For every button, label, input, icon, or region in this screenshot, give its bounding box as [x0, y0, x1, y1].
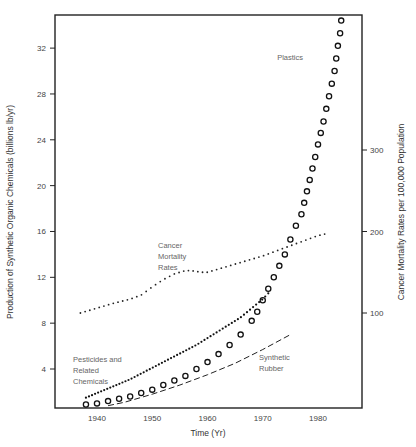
- left-tick-label: 4: [42, 365, 47, 374]
- right-tick-label: 100: [370, 309, 384, 318]
- left-tick-label: 32: [37, 44, 46, 53]
- cancer-label-line2: Mortality: [158, 252, 187, 261]
- x-tick-label: 1940: [88, 414, 106, 423]
- plastics-series: [83, 18, 343, 407]
- cancer-label-line3: Rates: [158, 263, 178, 272]
- left-tick-label: 24: [37, 136, 46, 145]
- left-axis-title: Production of Synthetic Organic Chemical…: [5, 105, 15, 319]
- left-tick-label: 20: [37, 182, 46, 191]
- rubber-label-line1: Synthetic: [259, 353, 290, 362]
- x-tick-label: 1950: [143, 414, 161, 423]
- chart: 48121620242832 100200300 194019501960197…: [0, 0, 416, 447]
- cancer-mortality-rates-series: [80, 233, 326, 314]
- x-tick-label: 1960: [199, 414, 217, 423]
- plastics-label: Plastics: [277, 53, 303, 62]
- pesticides-label-line3: Chemicals: [73, 377, 108, 386]
- left-tick-label: 16: [37, 227, 46, 236]
- series-layer: [80, 18, 344, 407]
- plot-frame: [55, 15, 362, 408]
- x-tick-label: 1980: [309, 414, 327, 423]
- pesticides-and-related-chemicals-series: [85, 292, 270, 398]
- pesticides-label-line2: Related: [73, 366, 99, 375]
- x-tick-label: 1970: [254, 414, 272, 423]
- right-axis-ticks: 100200300: [362, 146, 384, 318]
- x-axis-title: Time (Yr): [190, 428, 225, 438]
- left-tick-label: 8: [42, 319, 47, 328]
- right-tick-label: 300: [370, 146, 384, 155]
- left-tick-label: 28: [37, 90, 46, 99]
- right-tick-label: 200: [370, 228, 384, 237]
- right-axis-title: Cancer Mortality Rates per 100,000 Popul…: [396, 123, 406, 300]
- cancer-label-line1: Cancer: [158, 241, 183, 250]
- left-axis-ticks: 48121620242832: [37, 44, 55, 374]
- x-axis-ticks: 19401950196019701980: [88, 414, 327, 423]
- pesticides-label-line1: Pesticides and: [73, 355, 122, 364]
- rubber-label-line2: Rubber: [259, 364, 284, 373]
- left-tick-label: 12: [37, 273, 46, 282]
